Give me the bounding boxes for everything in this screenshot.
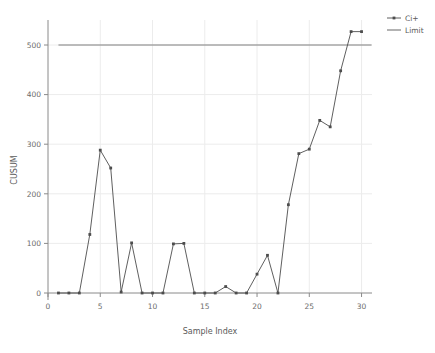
x-tick-label: 0 — [46, 302, 51, 311]
x-tick-label: 30 — [357, 302, 367, 311]
data-point-marker — [318, 119, 321, 122]
data-point-marker — [162, 292, 165, 295]
data-point-marker — [57, 292, 60, 295]
data-point-marker — [99, 149, 102, 152]
x-tick-label: 5 — [98, 302, 103, 311]
data-point-marker — [339, 69, 342, 72]
y-tick-label: 500 — [27, 41, 42, 50]
data-point-marker — [172, 243, 175, 246]
y-axis-title: CUSUM — [10, 155, 19, 184]
data-point-marker — [277, 292, 280, 295]
data-point-marker — [182, 242, 185, 245]
data-point-marker — [329, 125, 332, 128]
data-point-marker — [256, 273, 259, 276]
y-tick-label: 300 — [27, 140, 42, 149]
data-point-marker — [214, 292, 217, 295]
data-point-marker — [151, 292, 154, 295]
data-point-marker — [287, 203, 290, 206]
chart-background — [0, 0, 435, 353]
data-point-marker — [193, 292, 196, 295]
data-point-marker — [130, 242, 133, 245]
data-point-marker — [350, 30, 353, 33]
legend-swatch-marker — [393, 17, 396, 20]
x-tick-label: 10 — [148, 302, 158, 311]
x-axis-title: Sample Index — [183, 327, 238, 336]
data-point-marker — [235, 292, 238, 295]
x-tick-label: 25 — [305, 302, 315, 311]
y-tick-label: 100 — [27, 239, 42, 248]
y-tick-label: 400 — [27, 90, 42, 99]
y-tick-label: 0 — [36, 289, 41, 298]
data-point-marker — [88, 233, 91, 236]
cusum-chart-figure: 0100200300400500 051015202530 CUSUM Samp… — [0, 0, 435, 353]
data-point-marker — [120, 291, 123, 294]
data-point-marker — [266, 254, 269, 257]
data-point-marker — [224, 285, 227, 288]
chart-canvas: 0100200300400500 051015202530 CUSUM Samp… — [0, 0, 435, 353]
data-point-marker — [68, 292, 71, 295]
legend-label-limit[interactable]: Limit — [405, 26, 424, 35]
y-tick-label: 200 — [27, 190, 42, 199]
data-point-marker — [141, 292, 144, 295]
data-point-marker — [109, 167, 112, 170]
data-point-marker — [308, 148, 311, 151]
x-tick-label: 15 — [200, 302, 210, 311]
x-tick-label: 20 — [252, 302, 262, 311]
data-point-marker — [78, 292, 81, 295]
legend-label-ci[interactable]: Ci+ — [405, 14, 419, 23]
data-point-marker — [360, 30, 363, 33]
data-point-marker — [203, 292, 206, 295]
data-point-marker — [297, 152, 300, 155]
data-point-marker — [245, 292, 248, 295]
